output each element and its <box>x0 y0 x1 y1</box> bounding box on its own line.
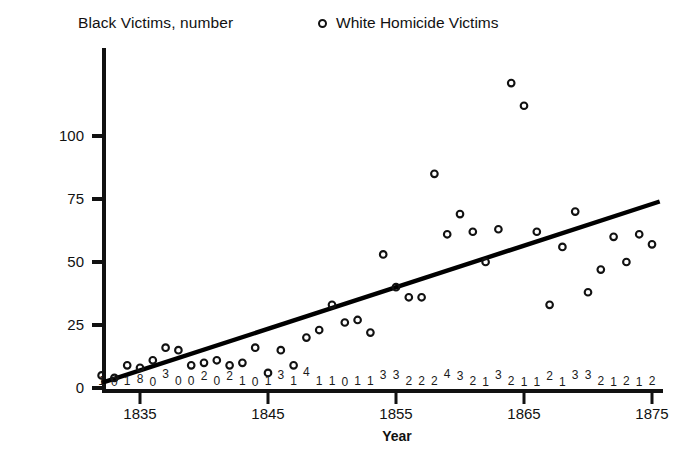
data-point <box>252 344 259 351</box>
data-point <box>214 357 221 364</box>
data-point <box>150 357 157 364</box>
y-tick-label: 75 <box>32 190 84 207</box>
data-point <box>636 231 643 238</box>
data-point <box>380 251 387 258</box>
data-point <box>418 294 425 301</box>
x-tick-label: 1875 <box>617 405 673 422</box>
data-point <box>482 259 489 266</box>
black-victims-value: 2 <box>645 375 659 387</box>
data-point <box>521 102 528 109</box>
data-point <box>367 329 374 336</box>
y-tick-label: 25 <box>32 316 84 333</box>
y-tick-label: 50 <box>32 253 84 270</box>
trend-line <box>102 202 660 383</box>
axis-lines <box>102 48 663 391</box>
data-point <box>278 347 285 354</box>
data-point <box>649 241 656 248</box>
data-point <box>623 259 630 266</box>
data-point <box>342 319 349 326</box>
x-tick-label: 1845 <box>233 405 303 422</box>
x-tick-label: 1865 <box>489 405 559 422</box>
data-point <box>598 266 605 273</box>
y-tick-label: 100 <box>32 127 84 144</box>
data-point <box>508 80 515 87</box>
data-point <box>188 362 195 369</box>
data-point <box>175 347 182 354</box>
data-point <box>457 211 464 218</box>
data-point <box>226 362 233 369</box>
x-axis-title: Year <box>337 428 457 444</box>
data-point <box>303 334 310 341</box>
trend-line-segment <box>102 202 660 383</box>
data-point <box>495 226 502 233</box>
data-point <box>162 344 169 351</box>
data-point <box>444 231 451 238</box>
data-point <box>329 302 336 309</box>
data-point <box>316 327 323 334</box>
data-point <box>124 362 131 369</box>
data-point <box>546 302 553 309</box>
data-point <box>572 208 579 215</box>
x-tick-label: 1835 <box>105 405 175 422</box>
data-point <box>239 360 246 367</box>
data-point <box>137 365 144 372</box>
data-point <box>470 228 477 235</box>
data-point <box>201 360 208 367</box>
data-point <box>585 289 592 296</box>
data-point <box>610 234 617 241</box>
data-point <box>406 294 413 301</box>
data-point <box>354 317 361 324</box>
data-point <box>431 171 438 178</box>
y-tick-label: 0 <box>32 379 84 396</box>
x-tick-label: 1855 <box>361 405 431 422</box>
data-point <box>290 362 297 369</box>
data-point <box>534 228 541 235</box>
data-point <box>559 244 566 251</box>
